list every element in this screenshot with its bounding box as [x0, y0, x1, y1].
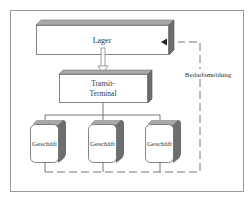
store-node-1: Geschäft: [31, 120, 67, 163]
transit-label-line1: Transit-: [91, 79, 115, 88]
feedback-label: Bedarfsmeldung: [185, 71, 232, 79]
store-label-3: Geschäft: [147, 140, 172, 148]
store-label-1: Geschäft: [32, 140, 57, 148]
transit-terminal-node: Transit- Terminal: [59, 70, 152, 103]
transit-label-line2: Terminal: [90, 89, 117, 98]
supply-chain-diagram: Lager Transit- Terminal Geschäft Gesc: [0, 0, 251, 198]
store-node-2: Geschäft: [89, 120, 125, 163]
store-label-2: Geschäft: [90, 140, 115, 148]
store-node-3: Geschäft: [146, 120, 182, 163]
warehouse-label: Lager: [93, 36, 112, 45]
